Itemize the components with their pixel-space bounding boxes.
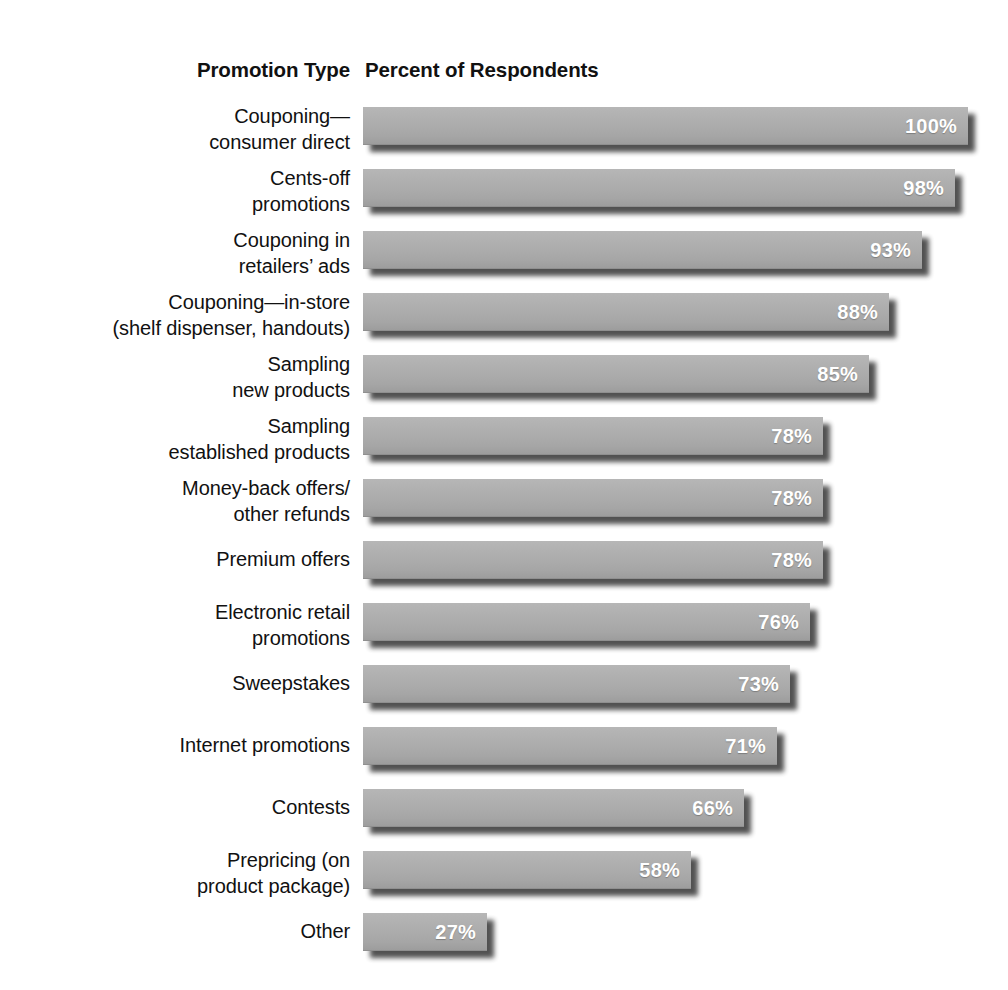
bar-fill: 66% [363,789,744,827]
bar-fill: 88% [363,293,889,331]
bar-row: Samplingnew products85% [0,351,1008,413]
bar-row: Sweepstakes73% [0,661,1008,723]
bar-row-label-line: other refunds [0,501,350,527]
bar-fill: 93% [363,231,922,269]
bar-row-label-line: Money-back offers/ [0,475,350,501]
bar: 78% [363,479,823,523]
bar-row-label-line: Contests [0,794,350,820]
bar-row-label-line: new products [0,377,350,403]
bar-row-label-line: Premium offers [0,546,350,572]
bar-row-label-line: promotions [0,625,350,651]
bar-row-label: Samplingnew products [0,351,350,403]
bar-value-label: 58% [639,851,680,889]
plot-area: Couponing—consumer direct100%Cents-offpr… [0,103,1008,973]
bar-row-label: Couponing—in-store(shelf dispenser, hand… [0,289,350,341]
bar-value-label: 66% [692,789,733,827]
bar-row-label-line: product package) [0,873,350,899]
bar: 27% [363,913,487,957]
bar-fill: 85% [363,355,869,393]
bar: 78% [363,417,823,461]
bar-row-label: Money-back offers/other refunds [0,475,350,527]
bar-fill: 78% [363,541,823,579]
bar-row-label-line: Cents-off [0,165,350,191]
bar-row-label-line: Sampling [0,413,350,439]
bar-row-label-line: Sampling [0,351,350,377]
bar-value-label: 71% [725,727,766,765]
bar-row-label-line: established products [0,439,350,465]
bar-row-label: Internet promotions [0,723,350,758]
bar-row-label-line: promotions [0,191,350,217]
bar-row: Electronic retailpromotions76% [0,599,1008,661]
bar-row-label: Premium offers [0,537,350,572]
bar-value-label: 78% [771,417,812,455]
bar: 88% [363,293,889,337]
bar-row-label-line: consumer direct [0,129,350,155]
bar-row-label: Contests [0,785,350,820]
bar-value-label: 73% [738,665,779,703]
promotion-type-bar-chart: Promotion Type Percent of Respondents Co… [0,0,1008,990]
bar-row-label-line: (shelf dispenser, handouts) [0,315,350,341]
bar-fill: 71% [363,727,777,765]
bar-row-label: Cents-offpromotions [0,165,350,217]
bar-row-label: Prepricing (onproduct package) [0,847,350,899]
bar-row-label-line: Couponing— [0,103,350,129]
bar-row-label-line: Prepricing (on [0,847,350,873]
bar: 71% [363,727,777,771]
bar-row-label-line: Other [0,918,350,944]
bar-row-label: Electronic retailpromotions [0,599,350,651]
bar-row: Couponing—in-store(shelf dispenser, hand… [0,289,1008,351]
bar-value-label: 78% [771,479,812,517]
bar-fill: 78% [363,479,823,517]
bar: 73% [363,665,790,709]
column-header-promotion-type: Promotion Type [150,58,350,82]
bar: 66% [363,789,744,833]
bar-value-label: 98% [903,169,944,207]
bar-fill: 76% [363,603,810,641]
bar-row-label: Sweepstakes [0,661,350,696]
bar-row: Couponing—consumer direct100% [0,103,1008,165]
bar-row: Money-back offers/other refunds78% [0,475,1008,537]
bar-value-label: 85% [817,355,858,393]
bar-row-label: Other [0,909,350,944]
bar-fill: 98% [363,169,955,207]
bar-fill: 58% [363,851,691,889]
bar-row-label: Couponing—consumer direct [0,103,350,155]
chart-header: Promotion Type Percent of Respondents [0,58,1008,88]
bar-row-label: Samplingestablished products [0,413,350,465]
bar-row: Other27% [0,909,1008,971]
bar: 85% [363,355,869,399]
bar: 93% [363,231,922,275]
bar-row-label-line: Sweepstakes [0,670,350,696]
bar-fill: 73% [363,665,790,703]
bar: 58% [363,851,691,895]
bar-row: Couponing inretailers’ ads93% [0,227,1008,289]
bar-value-label: 93% [870,231,911,269]
bar-row-label-line: Electronic retail [0,599,350,625]
bar-row-label-line: retailers’ ads [0,253,350,279]
bar-row: Prepricing (onproduct package)58% [0,847,1008,909]
bar-row: Premium offers78% [0,537,1008,599]
bar-row: Samplingestablished products78% [0,413,1008,475]
bar-value-label: 100% [905,107,957,145]
bar-row-label: Couponing inretailers’ ads [0,227,350,279]
bar-value-label: 27% [435,913,476,951]
bar-row-label-line: Couponing in [0,227,350,253]
bar: 98% [363,169,955,213]
bar-row: Contests66% [0,785,1008,847]
bar-fill: 78% [363,417,823,455]
column-header-percent-of-respondents: Percent of Respondents [365,58,599,82]
bar: 76% [363,603,810,647]
bar-row: Internet promotions71% [0,723,1008,785]
bar: 100% [363,107,968,151]
bar-row-label-line: Couponing—in-store [0,289,350,315]
bar-row-label-line: Internet promotions [0,732,350,758]
bar-value-label: 76% [758,603,799,641]
bar-row: Cents-offpromotions98% [0,165,1008,227]
bar-value-label: 78% [771,541,812,579]
bar: 78% [363,541,823,585]
bar-value-label: 88% [837,293,878,331]
bar-fill: 27% [363,913,487,951]
bar-fill: 100% [363,107,968,145]
